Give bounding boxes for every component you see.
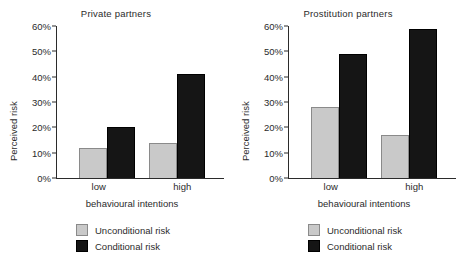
bar-low-unconditional-risk: [311, 107, 339, 178]
legend-swatch-icon: [308, 224, 320, 236]
panel-title: Private partners: [0, 8, 232, 19]
plot-area-wrapper: Perceived risk 0%10%20%30%40%50%60% lowh…: [232, 26, 464, 186]
y-tick-label: 10%: [32, 147, 51, 158]
y-tick-label: 20%: [264, 122, 283, 133]
plot-area-wrapper: Perceived risk 0%10%20%30%40%50%60% lowh…: [0, 26, 232, 186]
panel-prostitution-partners: Prostitution partners Perceived risk 0%1…: [232, 0, 464, 272]
legend-swatch-icon: [76, 224, 88, 236]
legend-label: Unconditional risk: [327, 225, 402, 236]
y-tick-label: 0%: [37, 173, 51, 184]
x-category-label: high: [373, 181, 457, 192]
y-tick-label: 60%: [32, 21, 51, 32]
y-tick-label: 40%: [264, 71, 283, 82]
bar-low-conditional-risk: [107, 127, 135, 178]
legend-label: Conditional risk: [327, 241, 392, 252]
legend: Unconditional riskConditional risk: [308, 224, 402, 252]
x-axis-label: behavioural intentions: [272, 198, 456, 209]
legend-item: Conditional risk: [76, 240, 170, 252]
y-tick-label: 40%: [32, 71, 51, 82]
bars-plot-area: [57, 26, 224, 178]
x-category-label: low: [57, 181, 141, 192]
legend: Unconditional riskConditional risk: [76, 224, 170, 252]
bar-group: [79, 26, 135, 178]
legend-swatch-icon: [76, 240, 88, 252]
bar-high-unconditional-risk: [149, 143, 177, 178]
legend-label: Unconditional risk: [95, 225, 170, 236]
x-axis-line: [56, 178, 224, 179]
y-tick-label: 60%: [264, 21, 283, 32]
y-tick-label: 10%: [264, 147, 283, 158]
legend-label: Conditional risk: [95, 241, 160, 252]
legend-item: Unconditional risk: [76, 224, 170, 236]
y-tick-label: 50%: [32, 46, 51, 57]
x-axis-category-labels: lowhigh: [57, 181, 224, 192]
bar-group: [149, 26, 205, 178]
y-tick-label: 20%: [32, 122, 51, 133]
panel-private-partners: Private partners Perceived risk 0%10%20%…: [0, 0, 232, 272]
x-axis-category-labels: lowhigh: [289, 181, 456, 192]
y-tick-label: 50%: [264, 46, 283, 57]
bar-group: [311, 26, 367, 178]
y-axis-label: Perceived risk: [238, 76, 252, 186]
legend-item: Unconditional risk: [308, 224, 402, 236]
y-axis-label: Perceived risk: [6, 76, 20, 186]
bar-low-unconditional-risk: [79, 148, 107, 178]
bars-plot-area: [289, 26, 456, 178]
y-tick-label: 0%: [269, 173, 283, 184]
x-category-label: high: [141, 181, 225, 192]
panel-title: Prostitution partners: [232, 8, 464, 19]
y-axis-ticks: 0%10%20%30%40%50%60%: [22, 26, 56, 178]
bar-high-conditional-risk: [409, 29, 437, 178]
bar-high-conditional-risk: [177, 74, 205, 178]
legend-swatch-icon: [308, 240, 320, 252]
y-tick-label: 30%: [32, 97, 51, 108]
x-axis-label: behavioural intentions: [40, 198, 224, 209]
x-category-label: low: [289, 181, 373, 192]
legend-item: Conditional risk: [308, 240, 402, 252]
y-axis-ticks: 0%10%20%30%40%50%60%: [254, 26, 288, 178]
figure-two-panel-bar-charts: Private partners Perceived risk 0%10%20%…: [0, 0, 464, 272]
bar-high-unconditional-risk: [381, 135, 409, 178]
bar-low-conditional-risk: [339, 54, 367, 178]
y-tick-label: 30%: [264, 97, 283, 108]
x-axis-line: [288, 178, 456, 179]
bar-group: [381, 26, 437, 178]
